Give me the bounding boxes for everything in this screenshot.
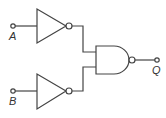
output-q-label: Q xyxy=(152,65,161,76)
nand-gate xyxy=(96,46,129,74)
not-gate-a xyxy=(37,9,66,43)
not-gate-b-bubble xyxy=(66,88,72,94)
wire-nota-to-nand xyxy=(72,26,96,52)
input-a-terminal xyxy=(11,24,15,28)
input-b-terminal xyxy=(11,89,15,93)
not-gate-a-bubble xyxy=(66,23,72,29)
not-gate-b xyxy=(37,74,66,109)
output-q-terminal xyxy=(155,58,159,62)
input-b-label: B xyxy=(9,96,16,107)
logic-diagram xyxy=(0,0,166,118)
input-a-label: A xyxy=(9,31,16,42)
wire-notb-to-nand xyxy=(72,67,96,91)
nand-gate-bubble xyxy=(129,57,135,63)
